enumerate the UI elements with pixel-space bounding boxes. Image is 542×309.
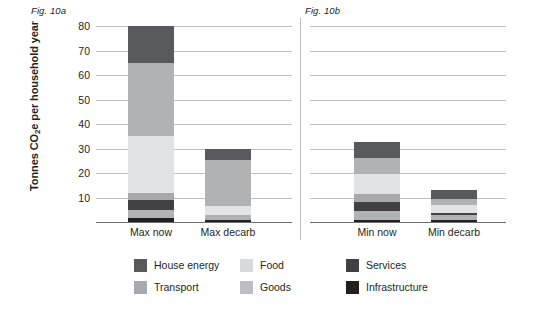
legend-label-services: Services (366, 259, 406, 271)
x-axis-label-min-decarb: Min decarb (428, 226, 480, 238)
bar-segment-infrastructure (431, 220, 477, 222)
gridline-a-80 (96, 26, 292, 27)
gridline-b-80 (310, 26, 506, 27)
legend-swatch-food (240, 259, 253, 272)
x-axis-label-max-decarb: Max decarb (201, 226, 256, 238)
bar-segment-food (431, 205, 477, 213)
bar-segment-house-energy (205, 149, 251, 160)
gridline-a-10 (96, 198, 292, 199)
y-tick-label-70: 70 (66, 45, 90, 57)
y-axis-title: Tonnes CO2e per household year (28, 6, 40, 206)
y-tick-label-60: 60 (66, 69, 90, 81)
bar-segment-food (205, 206, 251, 215)
bar-segment-transport (354, 194, 400, 203)
chart-legend: House energyFoodServicesTransportGoodsIn… (134, 254, 506, 298)
gridline-a-20 (96, 173, 292, 174)
bar-segment-house-energy (128, 26, 174, 63)
gridline-a-40 (96, 124, 292, 125)
panel-divider (300, 18, 301, 240)
x-axis-label-min-now: Min now (357, 226, 396, 238)
gridline-b-60 (310, 75, 506, 76)
y-axis-tick-labels: 8070605040302010 (64, 26, 90, 222)
legend-item-food[interactable]: Food (240, 259, 346, 272)
legend-swatch-goods (240, 281, 253, 294)
bar-segment-goods (354, 211, 400, 220)
plot-area-fig-10b: Min nowMin decarb (310, 26, 506, 222)
y-axis-title-rest: e per household year (28, 21, 40, 130)
legend-item-infrastructure[interactable]: Infrastructure (346, 281, 466, 294)
bar-segment-house-energy (431, 190, 477, 199)
gridline-b-50 (310, 100, 506, 101)
bar-segment-goods (128, 210, 174, 219)
legend-item-transport[interactable]: Transport (134, 281, 240, 294)
figure-b-caption: Fig. 10b (305, 5, 340, 16)
bar-segment-goods-upper (354, 158, 400, 174)
legend-label-transport: Transport (154, 281, 199, 293)
bar-max-decarb[interactable] (205, 149, 251, 222)
bar-segment-goods-upper (128, 63, 174, 137)
bar-segment-infrastructure (205, 220, 251, 222)
bar-segment-services (128, 200, 174, 210)
gridline-b-20 (310, 173, 506, 174)
bar-segment-food (354, 174, 400, 194)
bar-max-now[interactable] (128, 26, 174, 222)
gridline-b-0 (310, 222, 506, 223)
gridline-b-70 (310, 51, 506, 52)
bar-segment-transport (128, 193, 174, 200)
bar-min-decarb[interactable] (431, 190, 477, 222)
y-tick-label-80: 80 (66, 20, 90, 32)
y-tick-label-50: 50 (66, 94, 90, 106)
bar-segment-infrastructure (354, 220, 400, 222)
bar-segment-food (128, 136, 174, 192)
legend-item-services[interactable]: Services (346, 259, 466, 272)
y-tick-label-30: 30 (66, 143, 90, 155)
bar-segment-infrastructure (128, 218, 174, 222)
legend-swatch-infrastructure (346, 281, 359, 294)
legend-item-goods[interactable]: Goods (240, 281, 346, 294)
y-tick-label-20: 20 (66, 167, 90, 179)
gridline-a-60 (96, 75, 292, 76)
legend-label-infrastructure: Infrastructure (366, 281, 428, 293)
legend-label-food: Food (260, 259, 284, 271)
y-axis-title-main: Tonnes CO (28, 134, 40, 191)
y-axis-title-subscript: 2 (33, 130, 42, 134)
plot-area-fig-10a: Max nowMax decarb (96, 26, 292, 222)
gridline-a-0 (96, 222, 292, 223)
y-tick-label-40: 40 (66, 118, 90, 130)
bar-segment-services (354, 202, 400, 211)
chart-figure: Fig. 10a Fig. 10b Tonnes CO2e per househ… (0, 0, 542, 309)
gridline-a-50 (96, 100, 292, 101)
gridline-a-70 (96, 51, 292, 52)
legend-item-house-energy[interactable]: House energy (134, 259, 240, 272)
bar-segment-house-energy (354, 142, 400, 158)
bar-segment-goods-upper (205, 160, 251, 207)
gridline-a-30 (96, 149, 292, 150)
y-tick-label-10: 10 (66, 192, 90, 204)
legend-swatch-services (346, 259, 359, 272)
bar-min-now[interactable] (354, 142, 400, 222)
gridline-b-30 (310, 149, 506, 150)
legend-label-goods: Goods (260, 281, 291, 293)
gridline-b-40 (310, 124, 506, 125)
legend-swatch-house-energy (134, 259, 147, 272)
legend-swatch-transport (134, 281, 147, 294)
x-axis-label-max-now: Max now (130, 226, 172, 238)
legend-label-house-energy: House energy (154, 259, 219, 271)
